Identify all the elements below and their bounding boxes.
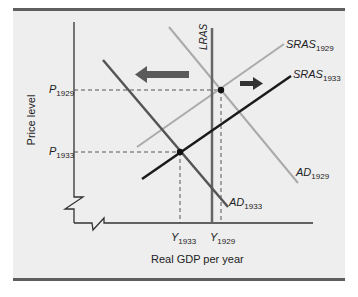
sras-1933-label: SRAS1933: [293, 68, 341, 83]
y-axis: [65, 22, 83, 223]
sras-1929-label: SRAS1929: [286, 38, 334, 53]
x-axis-title: Real GDP per year: [151, 253, 244, 265]
p1933-label: P1933: [49, 145, 75, 160]
ad-as-diagram: LRAS SRAS1929 SRAS1933 AD1929 AD1933 P19…: [0, 0, 358, 297]
y1929-label: Y1929: [210, 231, 236, 246]
lras-label: LRAS: [198, 24, 209, 50]
equilibrium-1929-dot: [218, 87, 224, 93]
sras-shift-right-arrow: [240, 77, 263, 90]
ad-1929-label: AD1929: [295, 166, 330, 181]
ad-shift-left-arrow: [135, 66, 189, 83]
equilibrium-1933-dot: [177, 149, 183, 155]
x-axis: [74, 218, 313, 230]
y-axis-title: Price level: [25, 95, 37, 146]
p1929-label: P1929: [49, 83, 75, 98]
ad-1933-label: AD1933: [228, 196, 263, 211]
y1933-label: Y1933: [171, 231, 197, 246]
